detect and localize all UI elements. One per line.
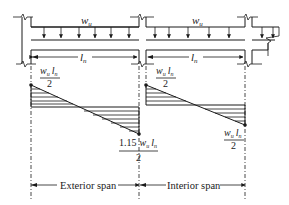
- load-arrows-right: [262, 27, 273, 38]
- svg-text:wuln: wuln: [40, 65, 57, 77]
- svg-text:2: 2: [231, 140, 236, 151]
- load-arrows-exterior: [31, 27, 139, 38]
- load-arrows-interior: [155, 27, 229, 38]
- label-interior-left-shear: wuln 2: [156, 65, 176, 89]
- svg-text:2: 2: [136, 152, 141, 163]
- label-interior-right-shear: wuln 2: [224, 127, 244, 151]
- interior-span-label: Interior span: [167, 180, 221, 191]
- svg-text:wuln: wuln: [224, 127, 241, 139]
- span-label-interior: ln: [191, 51, 198, 65]
- exterior-span-label: Exterior span: [60, 180, 117, 191]
- label-exterior-right-shear: 1.15wuln 2: [119, 137, 158, 163]
- load-label-interior: wu: [192, 14, 203, 28]
- label-exterior-left-shear: wuln 2: [40, 65, 60, 89]
- exterior-span-dimension: Exterior span: [31, 180, 139, 191]
- svg-text:wuln: wuln: [156, 65, 173, 77]
- svg-text:2: 2: [163, 78, 168, 89]
- svg-text:2: 2: [47, 78, 52, 89]
- shear-diagram-interior: [144, 83, 247, 127]
- shear-diagram: wu wu ln ln: [0, 0, 289, 205]
- load-label-exterior: wu: [81, 14, 92, 28]
- shear-diagram-exterior: [29, 83, 141, 136]
- svg-text:1.15wuln: 1.15wuln: [119, 137, 157, 149]
- interior-span-dimension: Interior span: [140, 180, 245, 191]
- span-label-exterior: ln: [80, 51, 87, 65]
